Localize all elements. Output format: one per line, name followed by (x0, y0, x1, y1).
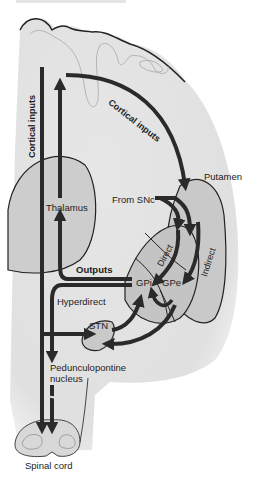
label-thalamus: Thalamus (46, 203, 88, 213)
label-outputs: Outputs (76, 265, 112, 275)
label-gpi: GPi (136, 278, 152, 288)
label-stn: STN (89, 321, 108, 331)
label-pedunculopontine: Pedunculopontine (50, 363, 126, 373)
label-cortical-inputs-vertical: Cortical inputs (28, 95, 37, 158)
label-from-snc: From SNc (112, 195, 155, 205)
label-gpe: GPe (162, 278, 181, 288)
label-putamen: Putamen (204, 172, 242, 182)
basal-ganglia-diagram (0, 0, 253, 477)
label-nucleus: nucleus (50, 374, 83, 384)
label-hyperdirect: Hyperdirect (57, 297, 106, 307)
label-spinal-cord: Spinal cord (25, 461, 73, 471)
